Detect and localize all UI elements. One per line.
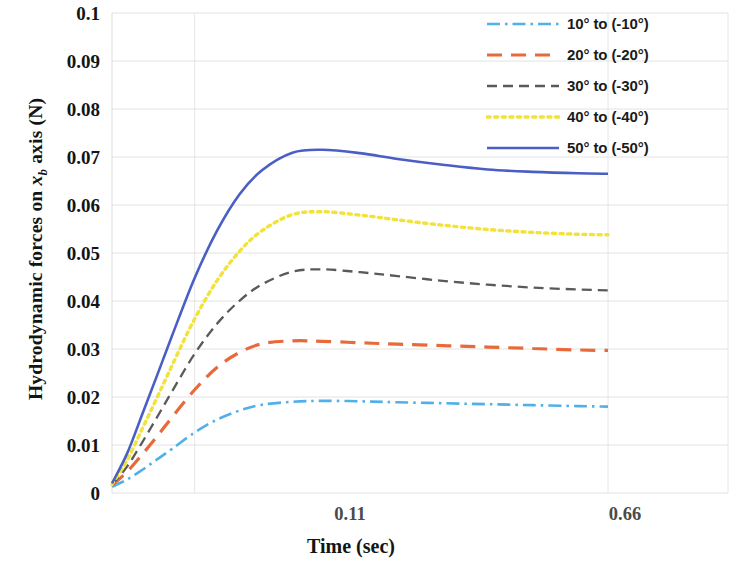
legend-label: 40° to (-40°) bbox=[567, 108, 649, 125]
legend-item[interactable]: 30° to (-30°) bbox=[486, 70, 730, 101]
legend-line-sample bbox=[486, 17, 560, 31]
legend-label: 30° to (-30°) bbox=[567, 77, 649, 94]
legend-label: 10° to (-10°) bbox=[567, 15, 649, 32]
legend: 10° to (-10°)20° to (-20°)30° to (-30°)4… bbox=[486, 8, 730, 163]
data-curve bbox=[112, 150, 608, 484]
legend-line-sample bbox=[486, 141, 560, 155]
legend-line-sample bbox=[486, 110, 560, 124]
legend-label: 20° to (-20°) bbox=[567, 46, 649, 63]
data-curves bbox=[112, 150, 608, 487]
legend-item[interactable]: 50° to (-50°) bbox=[486, 132, 730, 163]
legend-item[interactable]: 20° to (-20°) bbox=[486, 39, 730, 70]
data-curve bbox=[112, 341, 608, 486]
legend-label: 50° to (-50°) bbox=[567, 139, 649, 156]
legend-item[interactable]: 10° to (-10°) bbox=[486, 8, 730, 39]
legend-line-sample bbox=[486, 48, 560, 62]
chart-figure: Hydrodynamic forces on xb axis (N) 0.1 0… bbox=[0, 0, 732, 573]
legend-line-sample bbox=[486, 79, 560, 93]
data-curve bbox=[112, 401, 608, 487]
legend-item[interactable]: 40° to (-40°) bbox=[486, 101, 730, 132]
